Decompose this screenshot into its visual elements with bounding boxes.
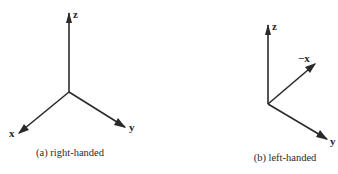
- y-label-a: y: [129, 121, 135, 133]
- z-label-a: z: [73, 8, 78, 20]
- z-arrowhead-b: [265, 24, 271, 35]
- caption-b: (b) left-handed: [254, 152, 317, 164]
- x-label-a: x: [9, 127, 15, 139]
- x-axis-a: [19, 92, 69, 133]
- neg-x-label-b: −x: [298, 52, 310, 64]
- caption-a: (a) right-handed: [36, 147, 105, 159]
- z-label-b: z: [272, 20, 277, 32]
- y-label-b: y: [330, 135, 336, 147]
- y-arrowhead-b: [316, 130, 328, 140]
- figure-a-right-handed: z x y (a) right-handed: [9, 8, 135, 159]
- figure-b-left-handed: z −x y (b) left-handed: [254, 20, 336, 164]
- y-arrowhead-a: [114, 118, 126, 128]
- coordinate-systems-diagram: z x y (a) right-handed z −x y (b) left-h…: [0, 0, 338, 174]
- z-arrowhead-a: [66, 12, 72, 23]
